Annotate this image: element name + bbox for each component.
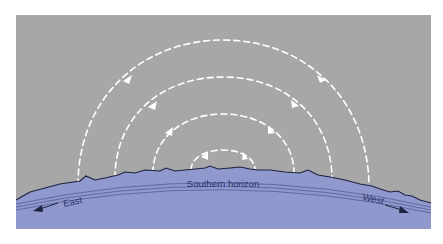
southern-horizon-label: Southern horizon <box>187 178 259 189</box>
sun-path-diagram: Southern horizon East West <box>0 0 443 244</box>
